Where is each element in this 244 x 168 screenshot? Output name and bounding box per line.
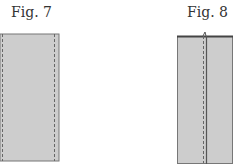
fig8-panel: [177, 32, 233, 164]
figures-canvas: [0, 0, 244, 168]
fig7-panel: [0, 34, 59, 161]
